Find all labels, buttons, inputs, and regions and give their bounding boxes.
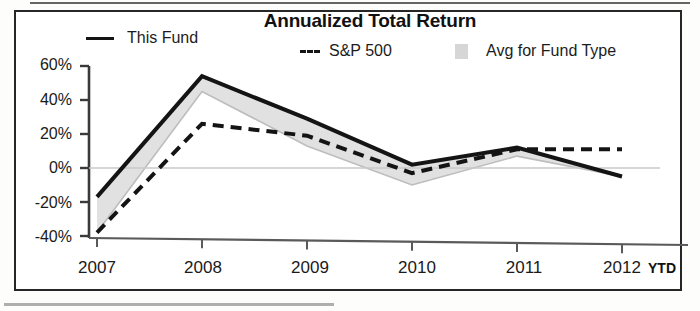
x-tick-label: 2012	[603, 258, 641, 278]
x-tick-label: 2007	[78, 258, 116, 278]
x-axis-ytd-note: YTD	[648, 260, 676, 276]
x-axis-line	[89, 238, 688, 245]
x-tick-label: 2011	[506, 258, 543, 278]
x-tick-label: 2008	[184, 258, 222, 278]
x-tick-label: 2010	[398, 258, 436, 278]
annualized-total-return-chart: Annualized Total Return This Fund S&P 50…	[0, 0, 700, 311]
x-tick-label: 2009	[291, 258, 329, 278]
exhibit-page: Annualized Total Return This Fund S&P 50…	[0, 0, 700, 311]
series-line-this-fund	[97, 76, 622, 197]
